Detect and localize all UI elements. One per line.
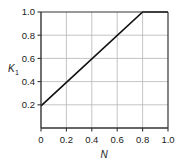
y-tick-label: 0.4	[22, 76, 35, 87]
y-tick-label: 0.2	[22, 99, 35, 110]
x-axis-tick-labels: 0 0.2 0.4 0.6 0.8 1.0	[38, 134, 174, 145]
y-tick-label: 0.6	[22, 53, 35, 64]
x-axis-title: N	[100, 149, 108, 160]
y-axis-title: K 1	[8, 63, 19, 76]
plot-background	[41, 12, 168, 128]
y-axis-tick-labels: 1.0 0.8 0.6 0.4 0.2	[22, 6, 35, 110]
x-tick-label: 0.6	[111, 134, 124, 145]
x-tick-label: 0	[38, 134, 43, 145]
chart-figure: 1.0 0.8 0.6 0.4 0.2 0 0.2 0.4 0.6 0.8 1.…	[0, 0, 180, 162]
x-tick-label: 0.2	[60, 134, 73, 145]
y-tick-label: 1.0	[22, 6, 35, 17]
line-chart: 1.0 0.8 0.6 0.4 0.2 0 0.2 0.4 0.6 0.8 1.…	[0, 0, 180, 162]
x-tick-label: 1.0	[161, 134, 174, 145]
x-tick-label: 0.8	[136, 134, 149, 145]
y-axis-title-subscript: 1	[15, 69, 19, 76]
x-tick-label: 0.4	[85, 134, 98, 145]
y-tick-label: 0.8	[22, 30, 35, 41]
